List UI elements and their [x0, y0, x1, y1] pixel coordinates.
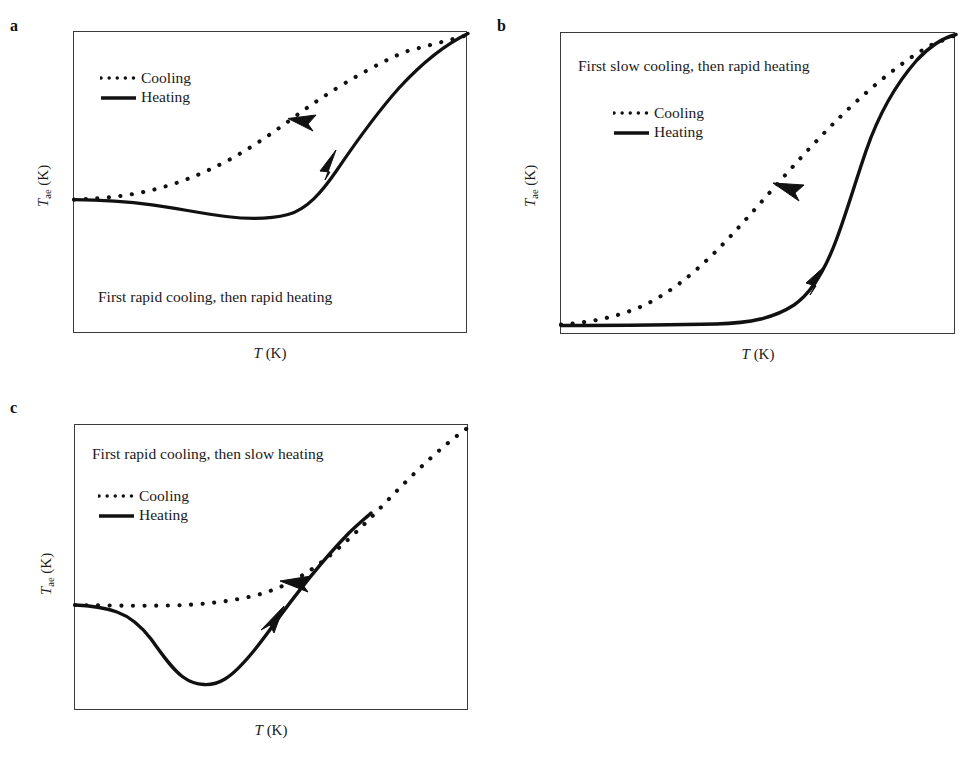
panel-b-legend: Cooling Heating [613, 104, 704, 142]
panel-b-y-axis-label: Tae (K) [522, 138, 540, 234]
panel-c-legend-heating: Heating [98, 506, 189, 525]
panel-c-legend-cooling: Cooling [98, 487, 189, 506]
panel-b-legend-cooling: Cooling [613, 104, 704, 123]
panel-a-x-axis-label: T (K) [200, 345, 340, 362]
panel-c-y-axis-label: Tae (K) [38, 526, 56, 622]
panel-b-heating-curve [561, 35, 956, 326]
panel-c-heating-arrowhead [261, 606, 284, 633]
x-axis-var: T [742, 346, 750, 362]
panel-b-caption: First slow cooling, then rapid heating [578, 57, 810, 74]
y-axis-var: T [38, 587, 54, 595]
panel-c-curves [75, 425, 469, 711]
panel-b-cooling-arrowhead [773, 183, 804, 201]
panel-c-heating-curve [75, 513, 371, 685]
y-axis-sub: ae [42, 189, 53, 198]
y-axis-unit: (K) [35, 165, 51, 190]
panel-c-x-axis-label: T (K) [201, 722, 341, 739]
panel-a-caption-text: First rapid cooling, then rapid heating [98, 288, 332, 305]
panel-a-legend-heating: Heating [100, 88, 191, 107]
panel-c-plot-frame: First rapid cooling, then slow heating C… [74, 424, 468, 710]
panel-a-heating-curve [74, 34, 468, 219]
panel-a-legend-cooling: Cooling [100, 69, 191, 88]
panel-a-cooling-arrowhead [288, 115, 316, 131]
panel-a-legend-heating-label: Heating [141, 89, 190, 106]
panel-a-cooling-curve [74, 35, 468, 200]
panel-a-y-axis-label: Tae (K) [35, 138, 53, 234]
panel-b-legend-heating-label: Heating [654, 124, 703, 141]
x-axis-unit: (K) [750, 346, 775, 362]
panel-a-letter: a [10, 18, 18, 34]
x-axis-unit: (K) [263, 722, 288, 738]
panel-b-curves [561, 33, 956, 335]
panel-c-caption-text: First rapid cooling, then slow heating [92, 445, 324, 462]
panel-b-cooling-curve [561, 35, 956, 325]
x-axis-var: T [254, 345, 262, 361]
y-axis-unit: (K) [522, 165, 538, 190]
heating-line-icon [100, 92, 138, 104]
cooling-line-icon [613, 108, 651, 120]
panel-a-caption: First rapid cooling, then rapid heating [98, 288, 332, 305]
y-axis-sub: ae [45, 577, 56, 586]
y-axis-var: T [522, 199, 538, 207]
y-axis-sub: ae [529, 189, 540, 198]
panel-b-plot-frame: First slow cooling, then rapid heating C… [560, 32, 955, 334]
panel-b-caption-text: First slow cooling, then rapid heating [578, 57, 810, 74]
panel-b-legend-cooling-label: Cooling [654, 105, 704, 122]
y-axis-unit: (K) [38, 553, 54, 578]
cooling-line-icon [100, 73, 138, 85]
cooling-line-icon [98, 491, 136, 503]
panel-a-legend: Cooling Heating [100, 69, 191, 107]
panel-c-legend-heating-label: Heating [139, 507, 188, 524]
panel-b-letter: b [497, 18, 506, 34]
panel-b-legend-heating: Heating [613, 123, 704, 142]
y-axis-var: T [35, 199, 51, 207]
panel-a-plot-frame: Cooling Heating First rapid cooling, the… [73, 31, 467, 333]
panel-c-letter: c [10, 400, 17, 416]
x-axis-var: T [255, 722, 263, 738]
heating-line-icon [613, 127, 651, 139]
panel-b-x-axis-label: T (K) [688, 346, 828, 363]
heating-line-icon [98, 510, 136, 522]
panel-c-legend-cooling-label: Cooling [139, 488, 189, 505]
panel-c-caption: First rapid cooling, then slow heating [92, 445, 324, 462]
x-axis-unit: (K) [262, 345, 287, 361]
panel-a-legend-cooling-label: Cooling [141, 70, 191, 87]
panel-c-legend: Cooling Heating [98, 487, 189, 525]
